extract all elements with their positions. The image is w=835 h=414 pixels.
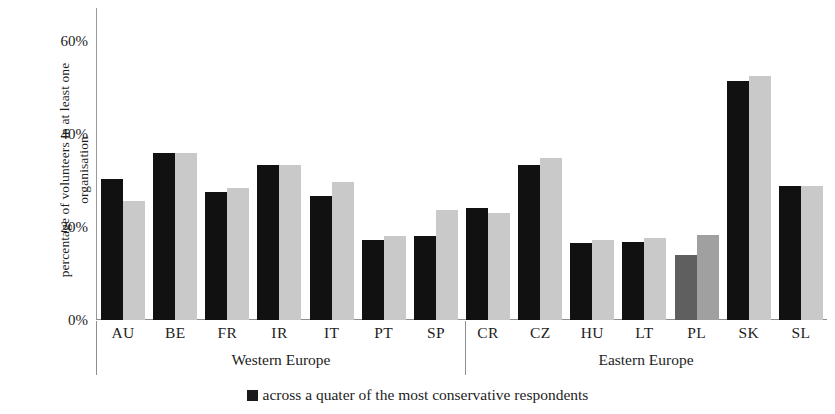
bar-sk-series-2 bbox=[749, 76, 771, 321]
bar-group-sl bbox=[775, 8, 827, 320]
bar-pl-series-2 bbox=[697, 235, 719, 320]
bar-pt-series-2 bbox=[384, 236, 406, 320]
y-tick-0: 0% bbox=[32, 312, 88, 329]
bar-lt-series-2 bbox=[644, 238, 666, 320]
category-label-sk: SK bbox=[723, 321, 775, 342]
bar-sl-series-2 bbox=[801, 186, 823, 320]
bar-cz-series-1 bbox=[518, 165, 540, 320]
chart-legend: across a quater of the most conservative… bbox=[0, 386, 835, 404]
bar-sl-series-1 bbox=[779, 186, 801, 320]
bar-group-pl bbox=[671, 8, 723, 320]
category-label-ir: IR bbox=[253, 321, 305, 342]
bar-cz-series-2 bbox=[540, 158, 562, 320]
plot-area bbox=[96, 8, 827, 320]
bar-group-lt bbox=[618, 8, 670, 320]
region-labels: Western Europe Eastern Europe bbox=[97, 351, 827, 369]
bar-chart: percentage of volunteers in at least one… bbox=[0, 0, 835, 414]
category-label-pt: PT bbox=[358, 321, 410, 342]
category-labels: AUBEFRIRITPTSPCRCZHULTPLSKSL bbox=[97, 321, 827, 342]
bar-sp-series-1 bbox=[414, 236, 436, 320]
bar-it-series-1 bbox=[310, 196, 332, 320]
category-label-lt: LT bbox=[618, 321, 670, 342]
category-label-fr: FR bbox=[201, 321, 253, 342]
bar-group-ir bbox=[253, 8, 305, 320]
bar-sk-series-1 bbox=[727, 81, 749, 320]
category-label-sl: SL bbox=[775, 321, 827, 342]
category-label-pl: PL bbox=[671, 321, 723, 342]
region-label-western-europe: Western Europe bbox=[231, 351, 330, 368]
category-label-hu: HU bbox=[566, 321, 618, 342]
y-tick-40: 40% bbox=[32, 126, 88, 143]
bar-group-be bbox=[149, 8, 201, 320]
bar-group-cr bbox=[462, 8, 514, 320]
category-label-cr: CR bbox=[462, 321, 514, 342]
bar-series-container bbox=[97, 8, 827, 320]
bar-lt-series-1 bbox=[622, 242, 644, 320]
bar-cr-series-1 bbox=[466, 208, 488, 320]
bar-fr-series-2 bbox=[227, 188, 249, 320]
bar-sp-series-2 bbox=[436, 210, 458, 320]
bar-ir-series-2 bbox=[279, 165, 301, 320]
bar-group-au bbox=[97, 8, 149, 320]
category-axis-band: AUBEFRIRITPTSPCRCZHULTPLSKSL Western Eur… bbox=[96, 321, 827, 375]
bar-group-it bbox=[306, 8, 358, 320]
bar-au-series-1 bbox=[101, 179, 123, 320]
bar-ir-series-1 bbox=[257, 165, 279, 320]
bar-cr-series-2 bbox=[488, 213, 510, 320]
bar-pt-series-1 bbox=[362, 240, 384, 320]
bar-be-series-2 bbox=[175, 153, 197, 320]
bar-group-sp bbox=[410, 8, 462, 320]
y-tick-60: 60% bbox=[32, 33, 88, 50]
region-west-wrap: Western Europe bbox=[97, 351, 465, 369]
bar-hu-series-2 bbox=[592, 240, 614, 320]
y-axis-tick-labels: 60% 40% 20% 0% bbox=[20, 0, 88, 414]
bar-group-pt bbox=[358, 8, 410, 320]
category-label-cz: CZ bbox=[514, 321, 566, 342]
category-label-be: BE bbox=[149, 321, 201, 342]
region-east-wrap: Eastern Europe bbox=[465, 351, 827, 369]
bar-au-series-2 bbox=[123, 201, 145, 320]
bar-group-hu bbox=[566, 8, 618, 320]
bar-fr-series-1 bbox=[205, 192, 227, 320]
bar-pl-series-1 bbox=[675, 255, 697, 320]
bar-group-cz bbox=[514, 8, 566, 320]
bar-it-series-2 bbox=[332, 182, 354, 320]
bar-group-sk bbox=[723, 8, 775, 320]
bar-hu-series-1 bbox=[570, 243, 592, 320]
region-label-eastern-europe: Eastern Europe bbox=[598, 351, 693, 368]
bar-group-fr bbox=[201, 8, 253, 320]
category-label-sp: SP bbox=[410, 321, 462, 342]
legend-swatch-dark-series bbox=[247, 390, 258, 401]
category-label-it: IT bbox=[306, 321, 358, 342]
category-label-au: AU bbox=[97, 321, 149, 342]
bar-be-series-1 bbox=[153, 153, 175, 320]
legend-label-dark-series: across a quater of the most conservative… bbox=[263, 386, 589, 404]
y-tick-20: 20% bbox=[32, 219, 88, 236]
